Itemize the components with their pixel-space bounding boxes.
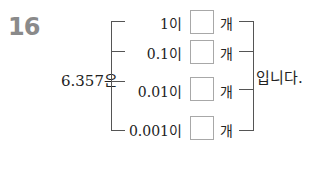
row-label: 0.001이	[112, 120, 182, 140]
unit-label: 개	[220, 13, 233, 33]
lead-text: 6.357은	[61, 69, 118, 90]
answer-box[interactable]	[190, 77, 214, 101]
problem-number: 16	[8, 13, 39, 41]
answer-box[interactable]	[190, 40, 214, 64]
row-label: 1이	[112, 13, 182, 33]
unit-label: 개	[220, 120, 233, 140]
row-label: 0.1이	[112, 43, 182, 63]
unit-label: 개	[220, 43, 233, 63]
answer-box[interactable]	[190, 116, 214, 140]
answer-box[interactable]	[190, 10, 214, 34]
tail-text: 입니다.	[256, 66, 303, 87]
row-label: 0.01이	[112, 81, 182, 101]
unit-label: 개	[220, 81, 233, 101]
